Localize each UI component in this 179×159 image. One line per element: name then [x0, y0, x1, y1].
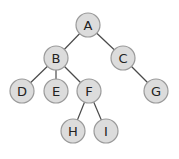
- tree-node-a: A: [76, 13, 100, 37]
- node-label: G: [151, 84, 161, 99]
- node-label: I: [104, 124, 108, 139]
- tree-node-b: B: [44, 46, 68, 70]
- tree-node-i: I: [94, 119, 118, 143]
- tree-node-h: H: [61, 119, 85, 143]
- node-label: F: [85, 84, 92, 99]
- tree-node-g: G: [144, 79, 168, 103]
- tree-diagram: ABCDEFGHI: [0, 0, 179, 159]
- tree-node-c: C: [111, 46, 135, 70]
- node-label: C: [118, 51, 127, 66]
- node-label: H: [68, 124, 78, 139]
- tree-node-f: F: [77, 79, 101, 103]
- node-label: E: [52, 84, 60, 99]
- tree-node-e: E: [44, 79, 68, 103]
- node-label: D: [17, 84, 27, 99]
- node-label: B: [52, 51, 61, 66]
- edges-group: [22, 25, 156, 131]
- nodes-group: ABCDEFGHI: [10, 13, 168, 143]
- tree-node-d: D: [10, 79, 34, 103]
- node-label: A: [84, 18, 93, 33]
